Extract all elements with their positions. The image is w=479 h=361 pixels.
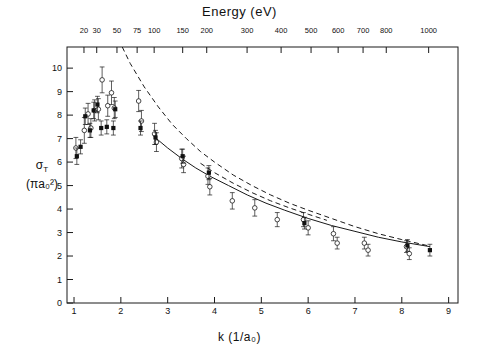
data-marker-filled-square [302,221,306,225]
data-marker-open-circle [335,241,340,246]
filled-square-measurements-point [83,108,88,124]
open-circle-measurements-point [136,90,141,111]
x-tick-label: 6 [306,306,311,316]
energy-tick-label: 30 [93,26,101,35]
data-marker-filled-square [153,135,157,139]
plot-frame [67,47,458,303]
y-tick-label: 3 [46,228,62,238]
data-marker-filled-square [95,102,99,106]
data-marker-filled-square [105,125,109,129]
open-circle-measurements-point [88,119,93,138]
data-marker-filled-square [138,126,142,130]
data-marker-open-circle [366,248,371,253]
data-marker-filled-square [99,126,103,130]
energy-tick-label: 600 [332,26,345,35]
filled-square-measurements-point [111,121,116,135]
data-marker-open-circle [96,107,101,112]
solid-theory-curve [154,136,430,246]
data-marker-filled-square [405,243,409,247]
open-circle-measurements-point [230,193,235,209]
open-circle-measurements-point [335,237,340,249]
filled-square-measurements-point [78,140,83,154]
data-marker-filled-square [78,145,82,149]
open-circle-measurements-point [275,213,280,227]
data-marker-filled-square [92,108,96,112]
x-tick-label: 5 [259,306,264,316]
data-marker-open-circle [362,241,367,246]
data-marker-filled-square [83,114,87,118]
data-marker-open-circle [331,231,336,236]
y-tick-label: 9 [46,87,62,97]
energy-tick-label: 20 [80,26,88,35]
data-marker-filled-square [113,107,117,111]
open-circle-measurements-point [252,200,257,216]
y-tick-label: 2 [46,251,62,261]
energy-tick-label: 100 [148,26,161,35]
energy-tick-label: 150 [176,26,189,35]
energy-tick-label: 500 [305,26,318,35]
data-marker-open-circle [105,103,110,108]
energy-tick-label: 200 [200,26,213,35]
open-circle-measurements-point [105,95,110,116]
data-marker-filled-square [181,154,185,158]
data-marker-filled-square [428,248,432,252]
data-marker-open-circle [306,226,311,231]
filled-square-measurements-point [104,120,109,134]
data-marker-open-circle [208,184,213,189]
open-circle-measurements-point [366,244,371,256]
open-circle-measurements-point [86,103,91,124]
filled-square-measurements-point [113,101,118,117]
energy-tick-label: 300 [241,26,254,35]
x-tick-label: 4 [212,306,217,316]
data-marker-open-circle [100,78,105,83]
data-marker-open-circle [252,206,257,211]
x-tick-label: 8 [399,306,404,316]
data-marker-open-circle [154,140,159,145]
data-marker-open-circle [82,128,87,133]
x-tick-label: 9 [446,306,451,316]
y-tick-label: 0 [46,298,62,308]
dashed-theory-curve-upper [122,47,430,246]
open-circle-measurements-point [96,99,101,120]
energy-tick-label: 400 [275,26,288,35]
data-marker-open-circle [136,99,141,104]
data-marker-open-circle [181,162,186,167]
x-tick-label: 7 [352,306,357,316]
energy-tick-label: 700 [357,26,370,35]
data-marker-filled-square [75,154,79,158]
y-tick-label: 1 [46,275,62,285]
energy-tick-label: 75 [133,26,141,35]
filled-square-measurements-point [99,121,104,135]
open-circle-measurements-point [82,117,87,143]
data-marker-filled-square [88,128,92,132]
figure-canvas: Energy (eV) k (1/a₀) σT (πa₀²) 123456789… [0,0,479,361]
x-tick-label: 3 [165,306,170,316]
y-tick-label: 6 [46,157,62,167]
data-marker-open-circle [109,90,114,95]
open-circle-measurements-point [100,67,105,93]
x-tick-label: 2 [118,306,123,316]
energy-tick-label: 800 [380,26,393,35]
y-tick-label: 4 [46,204,62,214]
open-circle-measurements-point [362,237,367,249]
y-tick-label: 7 [46,134,62,144]
energy-tick-label: 1000 [420,26,437,35]
y-tick-label: 5 [46,181,62,191]
y-tick-label: 8 [46,110,62,120]
y-tick-label: 10 [46,63,62,73]
energy-tick-label: 50 [113,26,121,35]
data-marker-open-circle [230,199,235,204]
x-tick-label: 1 [72,306,77,316]
data-marker-open-circle [275,217,280,222]
open-circle-measurements-point [331,227,336,241]
data-marker-open-circle [407,251,412,256]
data-marker-filled-square [111,126,115,130]
data-marker-filled-square [207,171,211,175]
